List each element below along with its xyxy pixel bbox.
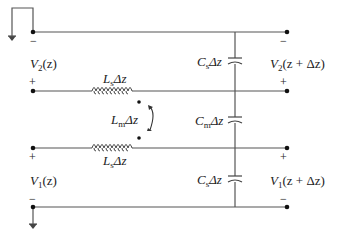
ground-arrow-icon-bottom [29,224,37,229]
minus-sign-left-top: − [30,34,37,48]
circuit-diagram: − + + − − + + − V2(z) V1(z) V2(z + Δz) V… [0,0,339,240]
label-ls-top: LsΔz [102,71,126,88]
label-cs-top: CsΔz [197,54,222,71]
bottom-reference-conductor [29,207,287,229]
terminal-nodes [31,30,290,210]
capacitor-cs-bottom-icon [228,176,242,182]
plus-sign-right-c1: + [280,150,287,164]
plus-sign-left-c2: + [29,75,36,89]
node-right-c2 [285,89,290,94]
double-arrow-icon [147,105,153,131]
dot-marker-top [137,100,141,104]
mutual-coupling [137,100,153,140]
inductor-ls-top-icon [92,88,133,95]
label-v2-right: V2(z + Δz) [270,56,325,73]
capacitor-cs-top-icon [228,58,242,64]
label-cm: CmΔz [195,113,223,130]
label-v1-left: V1(z) [30,173,57,190]
dot-marker-bottom [137,136,141,140]
label-v1-right: V1(z + Δz) [270,173,325,190]
label-lm: LmΔz [110,112,138,129]
inductor-ls-bottom-icon [92,145,133,152]
node-left-c2 [31,89,36,94]
polarity-signs: − + + − − + + − [29,34,287,206]
minus-sign-right-bottom: − [280,192,287,206]
capacitor-cm-icon [228,117,242,123]
plus-sign-right-c2: + [280,75,287,89]
conductor-1 [33,145,287,152]
plus-sign-left-c1: + [29,150,36,164]
conductor-2 [33,88,287,95]
top-reference-conductor [8,8,287,41]
shunt-capacitor-branch [228,32,242,207]
label-v2-left: V2(z) [30,56,57,73]
label-cs-bottom: CsΔz [197,172,222,189]
ground-arrow-icon-top [8,36,16,41]
minus-sign-left-bottom: − [29,192,36,206]
minus-sign-right-top: − [280,34,287,48]
label-ls-bottom: LsΔz [102,153,126,170]
